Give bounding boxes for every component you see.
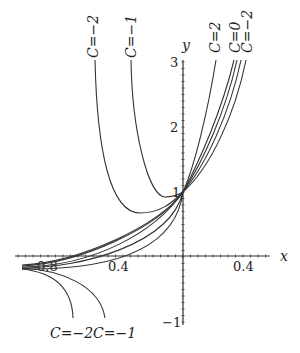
x-tick-label: 0.4 — [108, 259, 129, 274]
y-tick-label: −1 — [162, 315, 181, 330]
chart: x y 0.8 0.4 0.4 3 2 1 −1 C=−2C=−1C=2C=0C… — [0, 0, 300, 353]
curve-label: C=−1 — [93, 325, 136, 341]
y-tick-label: 3 — [170, 55, 178, 70]
curve-c-1 — [22, 268, 105, 318]
y-tick-label: 2 — [170, 120, 178, 135]
chart-svg: x y 0.8 0.4 0.4 3 2 1 −1 C=−2C=−1C=2C=0C… — [0, 0, 300, 353]
curve-label: C=2 — [207, 22, 223, 53]
x-axis-label: x — [280, 248, 288, 264]
minor-ticks — [18, 62, 266, 322]
curve-label: C=−2 — [85, 15, 101, 58]
curve-labels: C=−2C=−1C=2C=0C=−2C=−2C=−1 — [50, 10, 255, 341]
curve-c-2 — [95, 60, 183, 213]
curves — [22, 60, 246, 318]
curve-c-2-left-tail-below- — [22, 192, 183, 269]
curve-label: C=−2 — [239, 10, 255, 53]
curve-c-2 — [183, 60, 216, 192]
y-axis-label: y — [181, 37, 191, 53]
x-tick-label: 0.4 — [233, 259, 254, 274]
curve-label: C=−1 — [123, 15, 139, 58]
curve-c-1-left-tail- — [22, 192, 183, 266]
curve-label: C=−2 — [50, 325, 93, 341]
